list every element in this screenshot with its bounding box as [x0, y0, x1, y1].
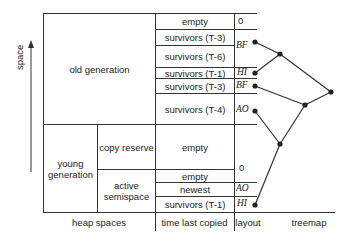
- layout-label: layout: [233, 217, 263, 228]
- time-last-copied-label: time last copied: [155, 217, 234, 228]
- treemap-label: treemap: [284, 217, 334, 228]
- treemap: [0, 0, 351, 241]
- heap-spaces-label: heap spaces: [43, 217, 155, 228]
